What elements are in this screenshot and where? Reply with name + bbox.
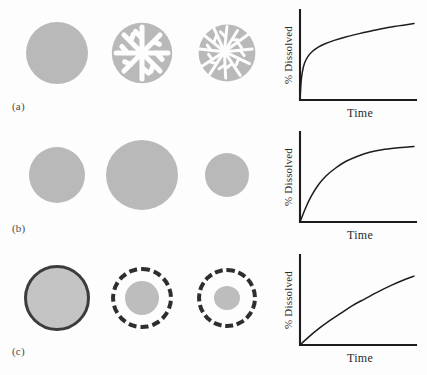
chart-a-curve: [300, 24, 414, 100]
panel-row-a: (a): [0, 0, 427, 125]
chart-b-curve: [300, 146, 414, 222]
chart-panel-a: % Dissolved Time: [268, 4, 420, 122]
chart-a-ylabel: % Dissolved: [282, 26, 294, 84]
chart-c-axes: [300, 255, 416, 345]
panel-b-stages: [0, 122, 265, 247]
stage-membrane-large-core: [97, 245, 187, 350]
membrane-sphere: [24, 265, 90, 331]
drug-core: [125, 281, 159, 315]
chart-c-curve: [300, 276, 414, 345]
stage-initial-particle: [12, 122, 102, 227]
chart-a-axes: [300, 10, 416, 100]
chart-panel-b: % Dissolved Time: [268, 126, 420, 244]
stage-shrunken-particle: [182, 122, 272, 227]
chart-c-ylabel: % Dissolved: [282, 271, 294, 329]
chart-b-xlabel: Time: [347, 228, 373, 242]
particle-disc: [29, 147, 85, 203]
stage-eroding-particle: [97, 0, 187, 105]
panel-row-b: (b) % Dissolved: [0, 122, 427, 247]
panel-row-c: (c): [0, 245, 427, 370]
chart-panel-c: % Dissolved Time: [268, 249, 420, 367]
stage-solid-membrane-sphere: [12, 245, 102, 350]
eroding-particle-icon: [106, 17, 178, 89]
dissolution-curve-c: % Dissolved Time: [268, 249, 420, 367]
particle-disc: [26, 22, 88, 84]
dissolution-curve-a: % Dissolved Time: [268, 4, 420, 122]
panel-c-stages: [0, 245, 265, 370]
particle-disc: [106, 140, 178, 210]
chart-c-xlabel: Time: [347, 351, 373, 365]
dissolution-mechanism-figure: (a): [0, 0, 427, 375]
stage-swollen-particle: [97, 122, 187, 227]
chart-a-xlabel: Time: [347, 106, 373, 120]
stage-membrane-small-core: [182, 245, 272, 350]
stage-intact-particle: [12, 0, 102, 105]
stage-fragmented-particle: [182, 0, 272, 105]
chart-b-ylabel: % Dissolved: [282, 148, 294, 206]
dissolution-curve-b: % Dissolved Time: [268, 126, 420, 244]
panel-a-stages: [0, 0, 265, 125]
chart-b-axes: [300, 132, 416, 222]
drug-core: [214, 286, 240, 310]
particle-disc: [205, 153, 249, 197]
fragmented-particle-icon: [194, 20, 260, 86]
